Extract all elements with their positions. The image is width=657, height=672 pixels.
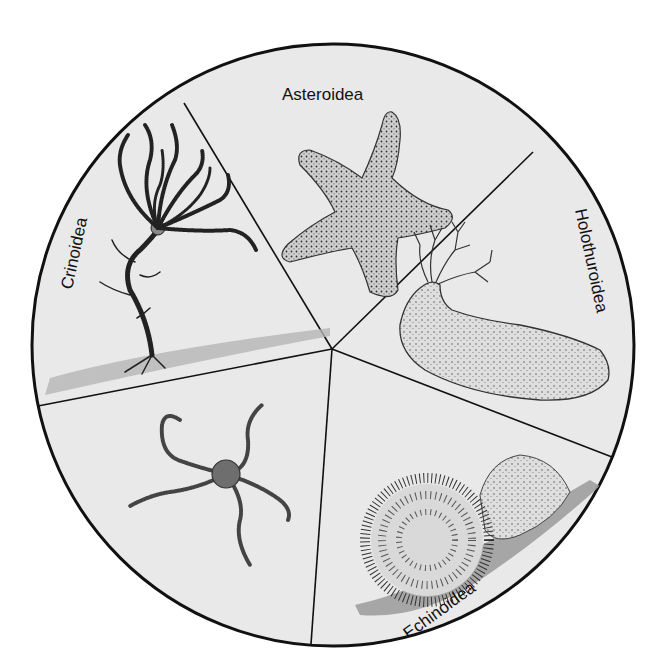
echinoderm-classes-diagram: Crinoidea Asteroidea Holothuroidea Echin… [0,0,657,672]
sector-label-asteroidea: Asteroidea [282,85,364,104]
